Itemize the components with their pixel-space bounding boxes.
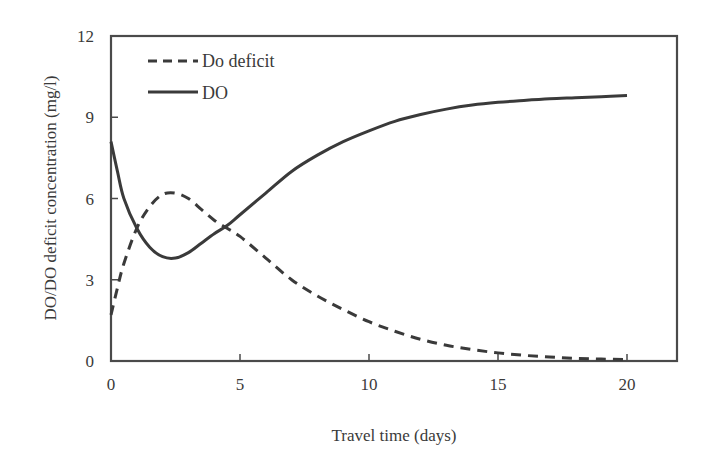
legend-label-do: DO	[202, 83, 228, 103]
x-tick-label: 5	[236, 375, 245, 394]
y-tick-label: 6	[86, 190, 95, 209]
tick-labels: 05101520036912	[77, 27, 636, 394]
x-tick-label: 15	[490, 375, 507, 394]
y-tick-label: 9	[86, 108, 95, 127]
x-axis-label: Travel time (days)	[332, 426, 457, 445]
x-tick-label: 0	[107, 375, 116, 394]
y-tick-label: 0	[86, 352, 95, 371]
series-do-deficit-line	[111, 193, 627, 360]
y-tick-label: 12	[77, 27, 94, 46]
legend: Do deficit DO	[148, 51, 274, 103]
legend-label-do-deficit: Do deficit	[202, 51, 274, 71]
plot-frame	[111, 36, 677, 361]
x-tick-label: 10	[361, 375, 378, 394]
series-layer	[111, 96, 627, 360]
y-axis-label: DO/DO deficit concentration (mg/l)	[41, 75, 60, 320]
chart-canvas: 05101520036912 Do deficit DO Travel time…	[0, 0, 709, 464]
y-tick-label: 3	[86, 271, 95, 290]
series-do-line	[111, 96, 627, 259]
axis-ticks	[111, 117, 627, 361]
x-tick-label: 20	[619, 375, 636, 394]
